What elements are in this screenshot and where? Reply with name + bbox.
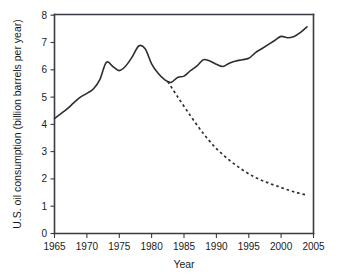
x-tick-label-1965: 1965	[43, 241, 66, 252]
chart-figure: 0 1 2 3 4 5 6 7 8 1965 1970 1975	[0, 0, 337, 278]
x-tick-label-1990: 1990	[205, 241, 228, 252]
x-tick-label-1970: 1970	[76, 241, 99, 252]
x-tick-label-2005: 2005	[302, 241, 325, 252]
x-tick-label-1980: 1980	[140, 241, 163, 252]
y-axis-title: U.S. oil consumption (billion barrels pe…	[11, 19, 23, 229]
x-tick-label-1995: 1995	[238, 241, 261, 252]
y-tick-label-5: 5	[41, 92, 47, 103]
y-tick-label-2: 2	[41, 173, 47, 184]
y-tick-label-1: 1	[41, 201, 47, 212]
y-tick-label-4: 4	[41, 119, 47, 130]
x-axis-title: Year	[173, 258, 195, 270]
y-tick-label-6: 6	[41, 64, 47, 75]
y-tick-label-7: 7	[41, 37, 47, 48]
x-tick-label-1985: 1985	[173, 241, 196, 252]
y-tick-label-3: 3	[41, 146, 47, 157]
x-tick-label-1975: 1975	[108, 241, 131, 252]
x-tick-label-2000: 2000	[270, 241, 293, 252]
x-axis-tick-labels: 1965 1970 1975 1980 1985 1990 1995 2000 …	[43, 241, 325, 252]
y-axis-tick-labels: 0 1 2 3 4 5 6 7 8	[41, 10, 47, 239]
chart-background	[0, 0, 337, 278]
y-tick-label-8: 8	[41, 10, 47, 21]
oil-consumption-line-chart: 0 1 2 3 4 5 6 7 8 1965 1970 1975	[0, 0, 337, 278]
y-tick-label-0: 0	[41, 228, 47, 239]
